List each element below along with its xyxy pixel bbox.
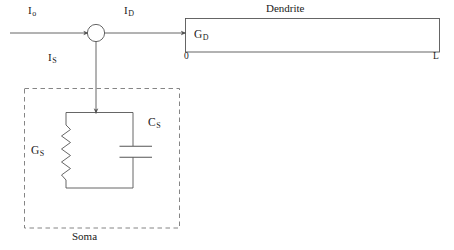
- input-current-label: Io: [28, 5, 36, 16]
- soma-conductance-label: GS: [31, 145, 44, 157]
- soma-capacitance-label: CS: [148, 117, 161, 129]
- soma-leak-conductance-resistor: [62, 125, 71, 180]
- diagram-canvas: Io ID IS GD Dendrite 0 L GS CS Soma: [0, 0, 454, 250]
- dendrite-cable-box: [186, 19, 440, 53]
- dendrite-title-label: Dendrite: [266, 3, 304, 14]
- soma-title-label: Soma: [72, 231, 97, 242]
- dendrite-length-tick-label: L: [433, 52, 439, 62]
- current-summing-node-circle: [87, 24, 104, 41]
- somatic-current-label: IS: [48, 52, 57, 63]
- soma-dashed-boundary: [25, 89, 180, 229]
- dendrite-conductance-label: GD: [194, 29, 209, 41]
- dendritic-current-label: ID: [124, 5, 134, 16]
- dendrite-origin-tick-label: 0: [184, 52, 189, 62]
- circuit-schematic: [0, 0, 454, 250]
